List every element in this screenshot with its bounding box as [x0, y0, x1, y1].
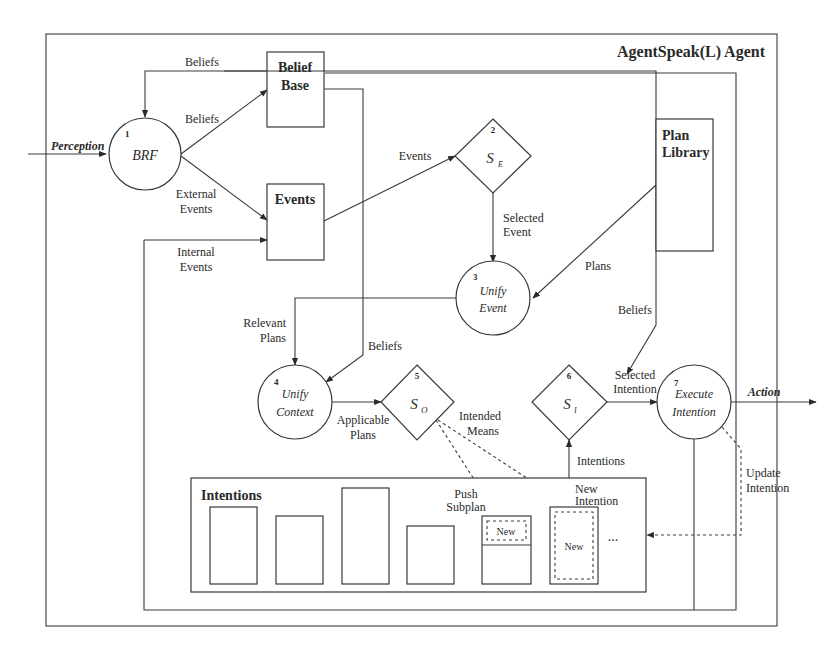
svg-text:Belief: Belief [278, 60, 313, 75]
plans-label: Plans [585, 259, 611, 273]
svg-text:Intention: Intention [671, 405, 715, 419]
action-label: Action [747, 385, 781, 399]
svg-text:Execute: Execute [674, 387, 714, 401]
plans-arrow [533, 185, 656, 298]
svg-text:O: O [421, 405, 428, 415]
svg-text:Base: Base [281, 78, 309, 93]
svg-text:S: S [410, 396, 418, 412]
relevant-plans-label: Relevant [243, 316, 286, 330]
svg-text:1: 1 [125, 129, 130, 139]
selected-intention-label: Selected [615, 368, 656, 382]
select-option-node: 5 S O [381, 365, 454, 440]
applicable-plans-label-2: Plans [350, 428, 376, 442]
selected-intention-label-2: Intention [613, 382, 656, 396]
svg-text:4: 4 [274, 377, 279, 387]
relevant-plans-arrow [295, 298, 456, 365]
new-intention-label-2: Intention [575, 494, 618, 508]
svg-text:Library: Library [662, 145, 709, 160]
more-intentions-ellipsis: ... [608, 529, 619, 544]
svg-text:Event: Event [478, 301, 507, 315]
perception-label: Perception [51, 139, 105, 153]
svg-text:Events: Events [275, 192, 316, 207]
brf-node: 1 BRF [109, 118, 181, 190]
select-intention-node: 6 S I [532, 365, 607, 440]
agentspeak-diagram: AgentSpeak(L) Agent Perception 1 BRF Bel… [0, 0, 840, 654]
intention-stack-1 [210, 507, 257, 584]
intentions-edge-label: Intentions [577, 454, 625, 468]
selected-event-label: Selected [503, 211, 544, 225]
beliefs-feedback-arrow [145, 71, 267, 117]
intention-stack-4 [407, 526, 454, 584]
svg-text:2: 2 [491, 125, 496, 135]
beliefs-context-label: Beliefs [368, 339, 402, 353]
svg-text:New: New [497, 526, 517, 537]
svg-text:6: 6 [567, 371, 572, 381]
intention-stack-3 [342, 488, 389, 584]
svg-text:Unify: Unify [282, 387, 309, 401]
internal-events-label: Internal [177, 245, 215, 259]
beliefs-label: Beliefs [185, 112, 219, 126]
belief-base-node: Belief Base [267, 52, 324, 127]
intentions-container: Intentions New Push Subplan New New Inte… [191, 478, 646, 592]
svg-text:BRF: BRF [132, 148, 158, 163]
update-intention-label-2: Intention [746, 481, 789, 495]
execute-intention-node: 7 Execute Intention [657, 365, 731, 439]
plan-library-node: Plan Library [656, 119, 713, 251]
internal-events-label-2: Events [180, 260, 213, 274]
external-events-label-2: Events [180, 202, 213, 216]
intention-stack-new: New [550, 507, 598, 584]
svg-text:S: S [486, 150, 494, 166]
beliefs-top-label: Beliefs [185, 55, 219, 69]
svg-text:I: I [573, 406, 577, 415]
svg-text:Plan: Plan [662, 128, 689, 143]
svg-text:Unify: Unify [480, 284, 507, 298]
select-event-node: 2 S E [455, 119, 531, 193]
unify-context-node: 4 Unify Context [258, 365, 332, 439]
svg-text:New: New [565, 541, 585, 552]
svg-text:E: E [497, 160, 503, 169]
intended-means-label-2: Means [467, 424, 499, 438]
update-intention-label: Update [746, 466, 781, 480]
external-events-label: External [176, 187, 217, 201]
svg-text:Context: Context [276, 405, 314, 419]
push-subplan-label: Push [454, 487, 477, 501]
agent-title: AgentSpeak(L) Agent [617, 43, 766, 61]
events-label: Events [399, 149, 432, 163]
push-subplan-label-2: Subplan [446, 500, 485, 514]
beliefs-execute-label: Beliefs [618, 303, 652, 317]
svg-text:Intentions: Intentions [201, 488, 262, 503]
svg-text:S: S [563, 396, 571, 412]
events-node: Events [267, 184, 324, 260]
svg-text:5: 5 [415, 371, 420, 381]
intention-stack-2 [276, 516, 323, 584]
relevant-plans-label-2: Plans [260, 331, 286, 345]
selected-event-label-2: Event [503, 225, 532, 239]
svg-text:3: 3 [473, 272, 478, 282]
beliefs-to-context-arrow [324, 89, 363, 382]
intention-stack-push-subplan: New [482, 516, 531, 584]
intended-means-label: Intended [459, 409, 501, 423]
events-to-se-arrow [324, 156, 455, 221]
applicable-plans-label: Applicable [337, 413, 390, 427]
unify-event-node: 3 Unify Event [456, 261, 530, 335]
